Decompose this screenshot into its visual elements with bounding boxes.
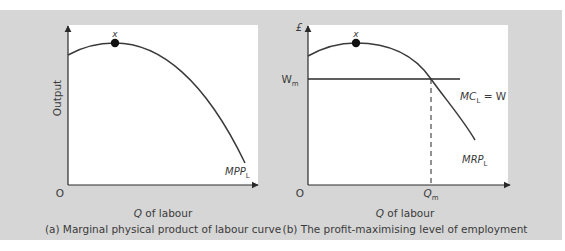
y-axis-label-b: £ xyxy=(296,22,303,33)
diagram-svg: x Output MPPL O Q of labour (a) Marginal… xyxy=(0,0,565,251)
x-axis-label-a: Q of labour xyxy=(134,207,193,219)
max-point-a xyxy=(111,39,119,47)
point-x-label-a: x xyxy=(111,29,118,39)
caption-b: (b) The profit-maximising level of emplo… xyxy=(283,223,528,235)
panel-b: x £ Wm MCL = W MRPL O Qm Q of labour (b)… xyxy=(281,22,527,235)
y-axis-label-a: Output xyxy=(51,80,63,116)
x-axis-label-b: Q of labour xyxy=(376,207,435,219)
origin-label-b: O xyxy=(296,187,304,199)
caption-a: (a) Marginal physical product of labour … xyxy=(45,223,281,235)
point-x-label-b: x xyxy=(352,29,359,39)
max-point-b xyxy=(352,39,360,47)
panel-a: x Output MPPL O Q of labour (a) Marginal… xyxy=(45,25,281,235)
origin-label-a: O xyxy=(56,187,64,199)
qm-label: Qm xyxy=(423,187,438,202)
wm-label: Wm xyxy=(281,73,298,88)
plot-area-a xyxy=(68,25,258,185)
